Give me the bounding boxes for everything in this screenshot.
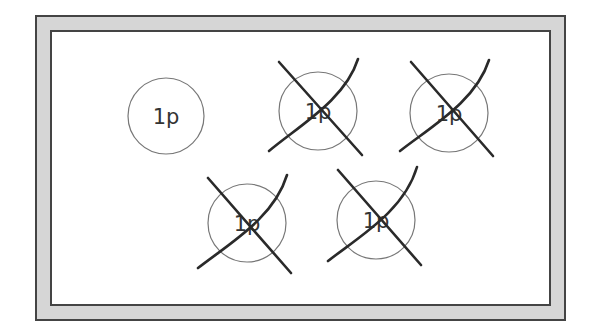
coin-label: 1p [153,105,180,129]
picture-frame [36,16,565,320]
diagram-canvas: 1p 1p 1p 1p 1p [0,0,592,331]
